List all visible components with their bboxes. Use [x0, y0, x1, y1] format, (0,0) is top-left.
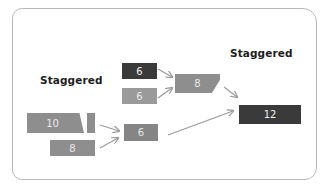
arrow-6-top-to-8-middle [158, 69, 172, 77]
arrow-6-middle-to-8-middle [158, 88, 172, 98]
arrow-6-lower-to-12 [168, 111, 233, 135]
arrows-layer [0, 0, 325, 188]
arrow-8-middle-to-12 [224, 87, 237, 97]
arrow-8-to-6-lower [100, 138, 118, 148]
arrow-10-to-6-lower [100, 125, 119, 131]
